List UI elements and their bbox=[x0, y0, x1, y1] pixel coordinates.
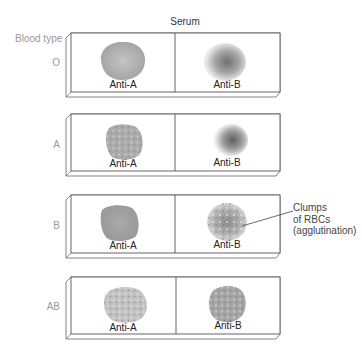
slide-type-b: Anti-A Anti-B bbox=[64, 192, 284, 262]
row-label-b: B bbox=[8, 220, 60, 232]
slide-outline bbox=[64, 111, 286, 181]
serum-label-anti-a: Anti-A bbox=[71, 158, 175, 169]
serum-label-anti-a: Anti-A bbox=[71, 322, 175, 333]
serum-label-anti-b: Anti-B bbox=[175, 79, 279, 90]
callout-line-3: (agglutination) bbox=[293, 225, 356, 237]
blood-type-header: Blood type bbox=[15, 33, 62, 45]
serum-label-anti-b: Anti-B bbox=[175, 239, 279, 250]
serum-label-anti-b: Anti-B bbox=[175, 157, 279, 168]
slide-type-ab: Anti-A Anti-B bbox=[64, 274, 284, 344]
callout-line-1: Clumps bbox=[293, 202, 356, 214]
slide-outline bbox=[64, 274, 286, 344]
row-label-o: O bbox=[8, 57, 60, 69]
serum-header: Serum bbox=[0, 16, 362, 28]
slide-type-o: Anti-A Anti-B bbox=[64, 30, 284, 100]
serum-label-anti-a: Anti-A bbox=[71, 79, 175, 90]
slide-type-a: Anti-A Anti-B bbox=[64, 111, 284, 181]
slide-outline bbox=[64, 192, 286, 262]
serum-label-anti-b: Anti-B bbox=[176, 320, 280, 331]
row-label-ab: AB bbox=[8, 301, 60, 313]
callout-line-2: of RBCs bbox=[293, 214, 356, 226]
agglutination-callout: Clumps of RBCs (agglutination) bbox=[293, 202, 356, 237]
serum-label-anti-a: Anti-A bbox=[71, 240, 175, 251]
row-label-a: A bbox=[8, 139, 60, 151]
